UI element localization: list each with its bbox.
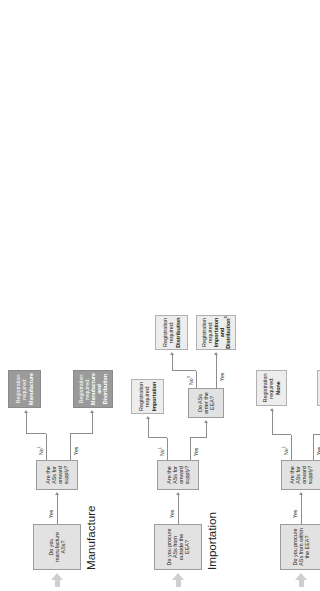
- importation-outcome-d2-no[interactable]: Registration required: Distribution: [155, 315, 188, 350]
- importation-outcome-d2-no-value: Distribution: [175, 317, 181, 347]
- importation-outcome-no-value: Importation: [151, 382, 157, 412]
- manufacture-entry-question-label: Do you manufacture ASs?: [48, 528, 66, 566]
- arrowhead-manufacture-yes: [90, 410, 94, 413]
- manufacture-outcome-yes-content: Registration required: Manufacture and D…: [78, 373, 108, 405]
- arrowhead-importation-entry: [176, 492, 180, 495]
- importation-outcome-d2-yes-content: Registration required: Importation and D…: [201, 316, 231, 348]
- entry-arrow-manufacture: [51, 573, 64, 587]
- connector-distribution-no-c: [272, 410, 273, 435]
- manufacture-outcome-no-value: Manufacture: [28, 373, 34, 405]
- importation-outcome-no[interactable]: Registration required: Importation: [131, 379, 164, 414]
- connector-importation-no-a: [167, 438, 168, 460]
- importation-decision[interactable]: Are the ASs for onward supply?: [157, 460, 199, 490]
- connector-manufacture-yes-c: [92, 412, 93, 434]
- arrowhead-imp-d2-yes: [214, 352, 218, 355]
- rotated-diagram-wrapper: Do you manufacture ASs? Manufacture Yes …: [0, 0, 275, 591]
- importation-outcome-no-content: Registration required: Importation: [138, 382, 156, 412]
- section-label-importation: Importation: [205, 512, 218, 570]
- importation-outcome-d2-yes-value-sup: 3: [223, 316, 228, 318]
- edge-label-imp-d2-yes: Yes: [219, 373, 225, 381]
- manufacture-entry-question[interactable]: Do you manufacture ASs?: [33, 524, 81, 570]
- edge-label-manufacture-no-text: No: [38, 448, 44, 455]
- manufacture-outcome-no-prefix: Registration required:: [15, 373, 27, 405]
- connector-manufacture-yes-b: [70, 433, 92, 434]
- connector-importation-entry: [178, 494, 179, 524]
- connector-imp-d2-yes-a: [216, 354, 217, 388]
- arrowhead-manufacture-entry: [55, 492, 59, 495]
- importation-outcome-no-prefix: Registration required:: [138, 382, 150, 412]
- edge-label-imp-d2-no-sup: 3: [186, 376, 191, 378]
- importation-outcome-d2-yes[interactable]: Registration required: Importation and D…: [196, 315, 236, 350]
- importation-outcome-d2-no-prefix: Registration required:: [162, 317, 174, 347]
- connector-importation-yes-c: [206, 422, 207, 438]
- edge-label-importation-yes: Yes: [169, 510, 175, 518]
- manufacture-decision[interactable]: Are the ASs for onward supply?: [36, 460, 78, 490]
- importation-decision2[interactable]: Do ASs enter the EEA?: [188, 388, 224, 418]
- connector-manufacture-no-a: [46, 434, 47, 460]
- distribution-outcome-no[interactable]: Registration required: None: [256, 370, 275, 406]
- arrowhead-imp-d2-no: [170, 352, 174, 355]
- connector-importation-no-b: [148, 437, 167, 438]
- importation-outcome-d2-no-content: Registration required: Distribution: [162, 317, 180, 347]
- edge-label-manufacture-yes: Yes: [48, 510, 54, 518]
- edge-label-imp-d2-no-text: No: [188, 378, 194, 385]
- manufacture-outcome-yes[interactable]: Registration required: Manufacture and D…: [73, 370, 113, 408]
- connector-imp-d2-no-a: [196, 371, 197, 388]
- edge-label-importation-no-text: No: [159, 449, 165, 456]
- importation-decision-label: Are the ASs for onward supply?: [166, 464, 190, 486]
- arrowhead-importation-no: [146, 416, 150, 419]
- edge-label-importation-no-sup: 1: [157, 447, 162, 449]
- entry-arrow-shaft: [176, 579, 181, 587]
- importation-outcome-d2-yes-value-text: Importation and Distribution: [213, 318, 231, 349]
- entry-arrow-head: [172, 573, 184, 580]
- edge-label-manufacture-yes2: Yes: [73, 447, 79, 455]
- connector-manufacture-no-b: [26, 433, 46, 434]
- manufacture-outcome-yes-prefix: Registration required:: [78, 373, 90, 405]
- distribution-outcome-no-prefix: Registration required:: [262, 374, 274, 403]
- arrowhead-distribution-no: [270, 408, 274, 411]
- manufacture-outcome-yes-value3: Distribution: [102, 373, 108, 405]
- flowchart-canvas: Do you manufacture ASs? Manufacture Yes …: [0, 0, 275, 591]
- connector-manufacture-yes-a: [70, 434, 71, 460]
- section-label-manufacture: Manufacture: [84, 506, 97, 570]
- manufacture-outcome-no[interactable]: Registration required: Manufacture: [8, 370, 41, 408]
- manufacture-decision-label: Are the ASs for onward supply?: [45, 464, 69, 486]
- importation-outcome-d2-yes-prefix: Registration required:: [201, 316, 213, 348]
- connector-manufacture-entry: [57, 494, 58, 524]
- connector-importation-yes-a: [190, 438, 191, 460]
- arrowhead-manufacture-no: [24, 410, 28, 413]
- connector-manufacture-no-c: [26, 412, 27, 434]
- distribution-outcome-no-content: Registration required: None: [262, 374, 275, 403]
- arrowhead-importation-yes: [204, 420, 208, 423]
- entry-arrow-importation: [172, 573, 185, 587]
- entry-arrow-head: [51, 573, 63, 580]
- importation-decision2-label: Do ASs enter the EEA?: [197, 392, 215, 414]
- edge-label-manufacture-no: No1: [38, 446, 44, 455]
- edge-label-importation-yes2: Yes: [193, 448, 199, 456]
- connector-imp-d2-no-c: [172, 354, 173, 371]
- importation-entry-question-label: Do you procure ASs from outside the EEA?: [166, 528, 190, 566]
- connector-importation-yes-b: [190, 437, 206, 438]
- edge-label-importation-no: No1: [159, 447, 165, 456]
- connector-imp-d2-no-b: [172, 370, 196, 371]
- entry-arrow-shaft: [55, 579, 60, 587]
- importation-entry-question[interactable]: Do you procure ASs from outside the EEA?: [154, 524, 202, 570]
- edge-label-imp-d2-no: No3: [188, 376, 194, 385]
- connector-importation-no-c: [148, 418, 149, 438]
- edge-label-manufacture-no-sup: 1: [36, 446, 41, 448]
- manufacture-outcome-no-content: Registration required: Manufacture: [15, 373, 33, 405]
- importation-outcome-d2-yes-value: Importation and Distribution3: [213, 316, 231, 348]
